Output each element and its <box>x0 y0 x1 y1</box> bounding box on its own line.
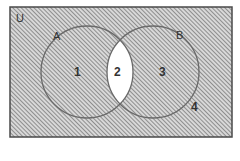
venn-diagram: U A B 1 2 3 4 <box>0 0 240 161</box>
universe-label: U <box>16 12 24 24</box>
region-1-label: 1 <box>74 65 81 79</box>
region-4-label: 4 <box>191 100 198 114</box>
set-a-label: A <box>53 30 61 42</box>
region-3-label: 3 <box>159 65 166 79</box>
set-b-label: B <box>176 29 183 41</box>
region-2-label: 2 <box>114 65 121 79</box>
